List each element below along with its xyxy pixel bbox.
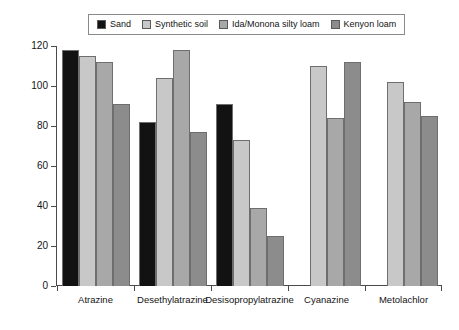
bar-kenyon-loam[interactable] [421,116,438,286]
x-axis-tick [134,286,135,291]
bar-group: Metolachlor [365,46,442,286]
y-axis-tick-label: 80 [37,119,48,132]
x-axis-tick [57,286,58,291]
x-axis-category-label: Metolachlor [379,294,428,306]
x-axis-category-label: Atrazine [78,294,113,306]
y-axis-tick-label: 40 [37,199,48,212]
bar-group-bars [288,46,365,286]
y-axis-tick: 60 [51,166,56,167]
legend-swatch-synthetic-soil [142,20,151,29]
bar-ida-monona-silty-loam[interactable] [404,102,421,286]
x-axis-tick [211,286,212,291]
x-axis-category-label: Desethylatrazine [137,294,208,306]
bar-group-bars [211,46,288,286]
bar-synthetic-soil[interactable] [156,78,173,286]
legend-entry-synthetic-soil: Synthetic soil [142,20,208,29]
bar-group: Cyanazine [288,46,365,286]
x-axis-category-label: Desisopropylatrazine [205,294,294,306]
bar-ida-monona-silty-loam[interactable] [327,118,344,286]
bar-chart-figure: Sand Synthetic soil Ida/Monona silty loa… [0,0,459,330]
y-axis-tick: 120 [51,46,56,47]
bar-synthetic-soil[interactable] [387,82,404,286]
legend-swatch-ida-monona-silty-loam [219,20,228,29]
y-axis-tick: 100 [51,86,56,87]
bar-kenyon-loam[interactable] [267,236,284,286]
bar-group: Desethylatrazine [134,46,211,286]
bar-kenyon-loam[interactable] [344,62,361,286]
bar-group: Atrazine [57,46,134,286]
legend-label-synthetic-soil: Synthetic soil [155,20,208,29]
bar-group-bars [57,46,134,286]
legend-label-ida-monona-silty-loam: Ida/Monona silty loam [232,20,320,29]
y-axis-tick-label: 60 [37,159,48,172]
legend-swatch-sand [97,20,106,29]
y-axis-tick: 80 [51,126,56,127]
bar-kenyon-loam[interactable] [113,104,130,286]
bar-ida-monona-silty-loam[interactable] [250,208,267,286]
legend-label-sand: Sand [110,20,131,29]
legend-entry-sand: Sand [97,20,131,29]
bar-kenyon-loam[interactable] [190,132,207,286]
bar-synthetic-soil[interactable] [310,66,327,286]
bar-group-bars [365,46,442,286]
y-axis-tick: 0 [51,286,56,287]
plot-area: 020406080100120 AtrazineDesethylatrazine… [56,46,442,286]
y-axis-tick: 20 [51,246,56,247]
bar-synthetic-soil[interactable] [233,140,250,286]
bar-sand[interactable] [216,104,233,286]
bar-sand[interactable] [62,50,79,286]
y-axis-tick-label: 20 [37,239,48,252]
y-axis-tick-label: 0 [42,279,48,292]
legend-entry-kenyon-loam: Kenyon loam [331,20,397,29]
bar-group: Desisopropylatrazine [211,46,288,286]
legend-entry-ida-monona-silty-loam: Ida/Monona silty loam [219,20,320,29]
y-axis-tick-label: 120 [31,39,48,52]
bar-ida-monona-silty-loam[interactable] [173,50,190,286]
y-axis-tick-label: 100 [31,79,48,92]
bar-synthetic-soil[interactable] [79,56,96,286]
chart-legend: Sand Synthetic soil Ida/Monona silty loa… [88,14,405,35]
y-axis-tick: 40 [51,206,56,207]
bar-group-bars [134,46,211,286]
bar-groups: AtrazineDesethylatrazineDesisopropylatra… [57,46,442,286]
x-axis-tick [288,286,289,291]
x-axis-tick [441,286,442,291]
legend-swatch-kenyon-loam [331,20,340,29]
y-axis-title: Recovery (%) [4,0,18,74]
legend-label-kenyon-loam: Kenyon loam [344,20,397,29]
bar-sand[interactable] [139,122,156,286]
x-axis-category-label: Cyanazine [304,294,349,306]
bar-ida-monona-silty-loam[interactable] [96,62,113,286]
x-axis-tick [365,286,366,291]
